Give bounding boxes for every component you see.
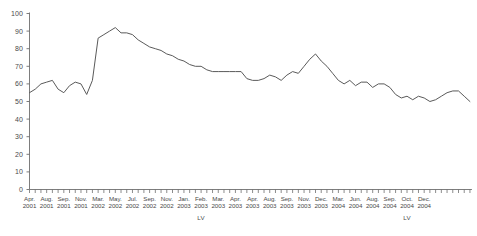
series-group-label: LV <box>188 214 214 221</box>
x-axis-ticks <box>30 190 470 194</box>
axes <box>27 13 472 194</box>
x-tick-month: Dec. <box>411 195 437 202</box>
x-tick-year: 2004 <box>411 202 437 209</box>
line-chart: 0102030405060708090100 Apr.2001Aug.2001S… <box>0 0 477 236</box>
series-group-label: LV <box>394 214 420 221</box>
data-series-group <box>30 28 470 102</box>
series-line-lv <box>30 28 470 102</box>
x-axis-tick-label: Dec.2004 <box>411 195 437 210</box>
